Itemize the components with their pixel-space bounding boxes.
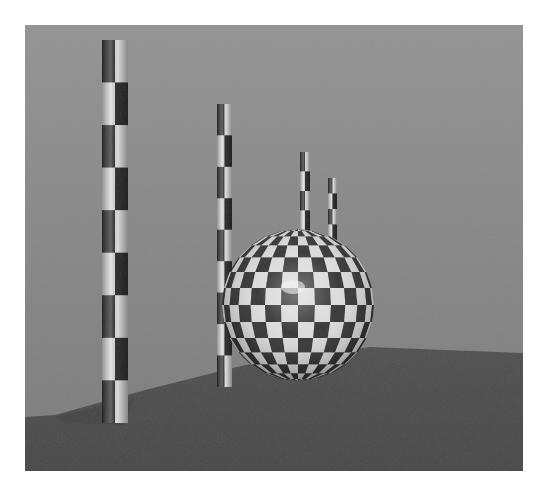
image-noise [25,25,523,471]
rendered-scene [25,25,523,471]
scene-canvas [25,25,523,471]
